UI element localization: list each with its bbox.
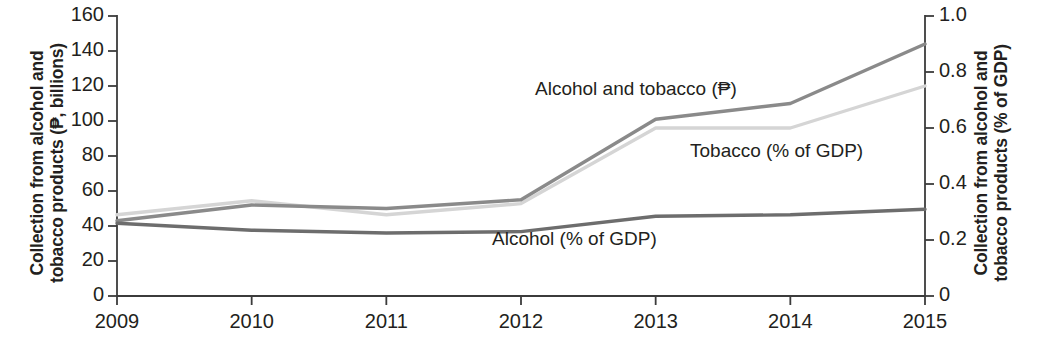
x-tick-label: 2011 (346, 310, 426, 333)
x-tick-label: 2012 (481, 310, 561, 333)
right-tick-label: 0.4 (939, 171, 993, 194)
x-tick-label: 2014 (750, 310, 830, 333)
left-tick-label: 60 (50, 178, 104, 201)
right-tick-label: 1.0 (939, 3, 993, 26)
left-tick-label: 40 (50, 213, 104, 236)
left-tick-label: 80 (50, 143, 104, 166)
x-tick-label: 2013 (616, 310, 696, 333)
left-tick-label: 100 (50, 108, 104, 131)
series-label-2: Alcohol (% of GDP) (492, 228, 657, 250)
left-tick-label: 20 (50, 248, 104, 271)
x-tick-label: 2015 (885, 310, 965, 333)
data-series (117, 44, 925, 233)
x-tick-label: 2010 (212, 310, 292, 333)
right-tick-label: 0.6 (939, 115, 993, 138)
chart-figure: Collection from alcohol and tobacco prod… (0, 0, 1038, 339)
right-tick-label: 0.2 (939, 227, 993, 250)
left-tick-label: 160 (50, 3, 104, 26)
series-label-0: Alcohol and tobacco (₱) (535, 78, 737, 100)
plot-area (0, 0, 1038, 339)
left-tick-label: 140 (50, 38, 104, 61)
series-line-0 (117, 44, 925, 221)
left-tick-label: 0 (50, 283, 104, 306)
right-tick-label: 0 (939, 283, 993, 306)
series-label-1: Tobacco (% of GDP) (690, 140, 863, 162)
x-tick-label: 2009 (77, 310, 157, 333)
right-tick-label: 0.8 (939, 59, 993, 82)
left-tick-label: 120 (50, 73, 104, 96)
